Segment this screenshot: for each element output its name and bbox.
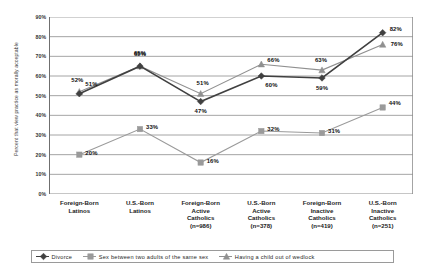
data-point-triangle <box>379 41 385 47</box>
y-axis-tick-70: 70% <box>22 53 46 59</box>
y-axis-tick-10: 10% <box>22 171 46 177</box>
legend-marker-triangle-icon <box>219 253 232 260</box>
x-axis-category-line: Catholics <box>170 214 231 222</box>
legend-label: Divorce <box>52 254 73 260</box>
y-axis-tick-90: 90% <box>22 14 46 20</box>
data-label: 82% <box>390 26 402 32</box>
data-label: 52% <box>66 77 88 83</box>
data-point-square <box>259 128 264 133</box>
x-axis-category-2: U.S.-BornLatinos <box>110 198 171 246</box>
plot-area: 51%65%47%60%59%82%20%33%16%32%31%44%52%6… <box>49 17 413 194</box>
data-label: 44% <box>389 100 401 106</box>
legend-item-1[interactable]: Divorce <box>36 253 72 260</box>
x-axis-category-line: Foreign-Born <box>292 199 353 207</box>
x-axis-category-line: (n=986) <box>170 222 231 230</box>
data-label: 20% <box>85 150 97 156</box>
y-axis-tick-0: 0% <box>22 191 46 197</box>
y-axis-tick-50: 50% <box>22 93 46 99</box>
x-axis-category-line: Inactive <box>352 207 413 215</box>
data-point-diamond <box>258 73 265 80</box>
data-label: 51% <box>192 80 214 86</box>
data-label: 76% <box>391 41 403 47</box>
x-axis-category-4: U.S.-BornActiveCatholics(n=378) <box>231 198 292 246</box>
y-axis-tick-80: 80% <box>22 34 46 40</box>
y-axis-tick-20: 20% <box>22 152 46 158</box>
x-axis-category-3: Foreign-BornActiveCatholics(n=986) <box>170 198 231 246</box>
x-axis-category-1: Foreign-BornLatinos <box>49 198 110 246</box>
data-point-square <box>319 130 324 135</box>
x-axis-category-line: Latinos <box>110 207 171 215</box>
data-label: 65% <box>129 51 151 57</box>
legend-label: Sex between two adults of the same sex <box>99 254 209 260</box>
legend-label: Having a child out of wedlock <box>235 254 315 260</box>
data-label: 66% <box>267 57 279 63</box>
data-label: 60% <box>265 82 277 88</box>
data-label: 33% <box>146 124 158 130</box>
x-axis-category-line: Foreign-Born <box>49 199 110 207</box>
data-point-square <box>380 105 385 110</box>
chart-legend: DivorceSex between two adults of the sam… <box>31 250 394 263</box>
x-axis-category-line: Catholics <box>231 214 292 222</box>
y-axis-tick-60: 60% <box>22 73 46 79</box>
y-axis-tick-30: 30% <box>22 132 46 138</box>
data-point-diamond <box>197 98 204 105</box>
x-axis-category-line: Catholics <box>352 214 413 222</box>
data-label: 63% <box>310 57 332 63</box>
data-label: 59% <box>311 85 333 91</box>
x-axis-category-line: Foreign-Born <box>170 199 231 207</box>
y-axis-tick-40: 40% <box>22 112 46 118</box>
legend-marker-diamond-icon <box>36 253 49 260</box>
legend-marker-square-icon <box>83 253 96 260</box>
plot-svg <box>49 17 413 194</box>
x-axis-category-line: Active <box>231 207 292 215</box>
x-axis-category-line: (n=378) <box>231 222 292 230</box>
legend-item-2[interactable]: Sex between two adults of the same sex <box>83 253 208 260</box>
data-point-square <box>137 126 142 131</box>
x-axis-category-line: Latinos <box>49 207 110 215</box>
series-line-diamond <box>79 33 382 102</box>
data-point-square <box>77 152 82 157</box>
series-line-triangle <box>79 45 382 94</box>
data-label: 16% <box>207 158 219 164</box>
x-axis-category-line: U.S.-Born <box>110 199 171 207</box>
data-point-triangle <box>197 91 203 97</box>
x-axis-category-5: Foreign-BornInactiveCatholics(n=419) <box>292 198 353 246</box>
data-label: 47% <box>190 108 212 114</box>
data-label: 31% <box>328 128 340 134</box>
x-axis-category-line: (n=419) <box>292 222 353 230</box>
x-axis-category-line: Active <box>170 207 231 215</box>
legend-item-3[interactable]: Having a child out of wedlock <box>219 253 314 260</box>
x-axis-category-line: (n=251) <box>352 222 413 230</box>
x-axis-category-6: U.S.-BornInactiveCatholics(n=251) <box>352 198 413 246</box>
chart-container: Percent that view practice as morally ac… <box>0 0 425 272</box>
data-label: 32% <box>267 126 279 132</box>
x-axis-category-line: U.S.-Born <box>231 199 292 207</box>
x-axis-category-line: Inactive <box>292 207 353 215</box>
x-axis-category-line: Catholics <box>292 214 353 222</box>
x-axis-tick-labels: Foreign-BornLatinosU.S.-BornLatinosForei… <box>49 198 413 246</box>
x-axis-category-line: U.S.-Born <box>352 199 413 207</box>
data-point-square <box>198 160 203 165</box>
y-axis-title: Percent that view practice as morally ac… <box>13 9 19 189</box>
